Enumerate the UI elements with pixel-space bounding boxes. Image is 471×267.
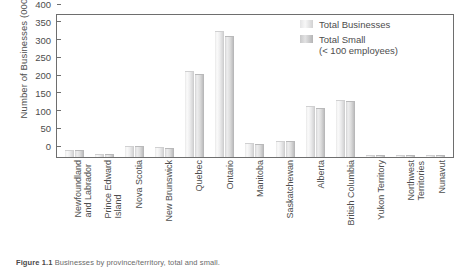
bar-total-businesses	[426, 155, 435, 157]
x-label-cell: Ontario	[215, 160, 235, 248]
x-tick-label: NorthwestTerritories	[406, 160, 426, 201]
x-label-cell: Saskatchewan	[275, 160, 295, 248]
x-tick-label: Ontario	[225, 160, 235, 190]
x-tick-label: Manitoba	[255, 160, 265, 197]
bar-total-businesses	[185, 71, 194, 157]
y-tick-label: 50	[40, 123, 57, 134]
x-label-cell: New Brunswick	[154, 160, 174, 248]
figure-caption-text: Businesses by province/territory, total …	[55, 258, 220, 267]
bar-total-small	[165, 148, 174, 157]
x-tick-label: Prince EdwardIsland	[103, 160, 123, 219]
y-tick-label: 0	[46, 141, 57, 152]
bar-total-small	[406, 155, 415, 157]
x-label-cell: Quebec	[184, 160, 204, 248]
x-tick-label: Newfoundlandand Labrador	[73, 160, 93, 218]
figure-caption: Figure 1.1 Businesses by province/territ…	[16, 258, 220, 267]
x-tick-label: Quebec	[194, 160, 204, 192]
y-tick-label: 150	[35, 87, 57, 98]
figure-caption-prefix: Figure 1.1	[16, 258, 52, 267]
bar-group	[396, 15, 415, 157]
legend-label-total-small: Total Small	[319, 34, 365, 45]
y-tick-mark	[57, 4, 61, 5]
bar-total-small	[135, 146, 144, 157]
bar-group	[95, 15, 114, 157]
x-tick-label: Nova Scotia	[134, 160, 144, 209]
bar-total-businesses	[396, 155, 405, 157]
bar-total-small	[436, 155, 445, 157]
bar-total-businesses	[306, 106, 315, 157]
x-label-cell: Manitoba	[245, 160, 265, 248]
bar-group	[155, 15, 174, 157]
legend-item-total-businesses: Total Businesses	[300, 19, 398, 30]
y-tick-label: 200	[35, 70, 57, 81]
bar-group	[426, 15, 445, 157]
bar-total-small	[195, 74, 204, 157]
x-label-cell: British Columbia	[336, 160, 356, 248]
bar-total-businesses	[276, 141, 285, 157]
bar-total-businesses	[125, 146, 134, 157]
legend-swatch-total-businesses	[300, 20, 313, 28]
bar-total-small	[105, 154, 114, 157]
bar-total-small	[75, 150, 84, 157]
x-tick-label: Nunavut	[437, 160, 447, 194]
legend-sublabel-total-small: (< 100 employees)	[319, 45, 398, 56]
y-tick-label: 100	[35, 105, 57, 116]
legend-item-total-small: Total Small (< 100 employees)	[300, 34, 398, 56]
bar-group	[215, 15, 234, 157]
x-label-cell: Nunavut	[427, 160, 447, 248]
legend-label-total-businesses: Total Businesses	[319, 19, 390, 30]
bar-total-small	[346, 101, 355, 157]
bar-group	[276, 15, 295, 157]
bar-group	[65, 15, 84, 157]
y-tick-label: 250	[35, 52, 57, 63]
bar-total-businesses	[95, 154, 104, 157]
bar-group	[185, 15, 204, 157]
bar-total-small	[286, 141, 295, 157]
x-axis-labels: Newfoundlandand LabradorPrince EdwardIsl…	[56, 160, 454, 248]
x-label-cell: NorthwestTerritories	[396, 160, 416, 248]
y-tick-label: 400	[35, 0, 57, 10]
x-label-cell: Prince EdwardIsland	[93, 160, 113, 248]
x-tick-label: British Columbia	[346, 160, 356, 226]
x-tick-label: Alberta	[316, 160, 326, 189]
bar-total-businesses	[215, 31, 224, 157]
bar-total-businesses	[366, 155, 375, 157]
bar-total-businesses	[245, 143, 254, 157]
bar-total-small	[255, 144, 264, 157]
x-tick-label: New Brunswick	[164, 160, 174, 222]
bar-total-small	[316, 108, 325, 157]
x-label-cell: Nova Scotia	[124, 160, 144, 248]
x-label-cell: Yukon Territory	[366, 160, 386, 248]
x-tick-label: Saskatchewan	[285, 160, 295, 219]
bar-total-small	[376, 155, 385, 157]
bar-total-businesses	[336, 100, 345, 157]
x-label-cell: Alberta	[306, 160, 326, 248]
legend-swatch-total-small	[300, 35, 313, 43]
y-tick-label: 300	[35, 34, 57, 45]
y-tick-label: 350	[35, 16, 57, 27]
bar-group	[245, 15, 264, 157]
bar-total-businesses	[65, 150, 74, 157]
bar-total-small	[225, 36, 234, 157]
chart-legend: Total Businesses Total Small (< 100 empl…	[300, 19, 398, 60]
x-label-cell: Newfoundlandand Labrador	[63, 160, 83, 248]
y-axis-title: Number of Businesses (000's)	[18, 0, 29, 129]
bar-group	[125, 15, 144, 157]
bar-total-businesses	[155, 147, 164, 157]
x-tick-label: Yukon Territory	[376, 160, 386, 220]
